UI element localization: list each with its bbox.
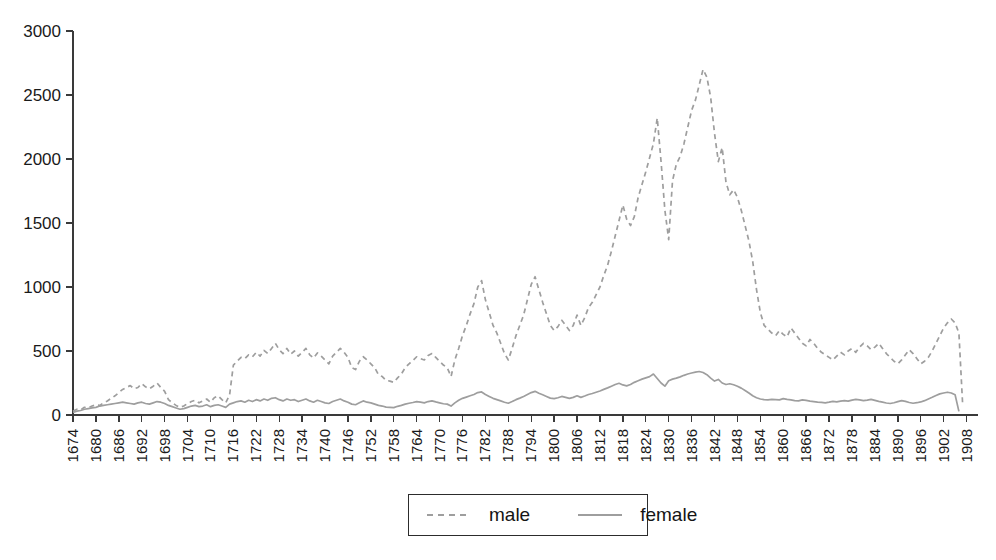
y-tick-label: 500 xyxy=(33,342,61,361)
y-tick-label: 2000 xyxy=(23,150,61,169)
x-tick-label: 1704 xyxy=(179,429,196,462)
x-tick-label: 1848 xyxy=(728,429,745,462)
x-tick-label: 1818 xyxy=(614,429,631,462)
x-tick-label: 1860 xyxy=(774,429,791,462)
chart-legend: male female xyxy=(408,494,648,536)
x-tick-label: 1830 xyxy=(660,429,677,462)
x-tick-label: 1764 xyxy=(408,429,425,462)
x-tick-label: 1752 xyxy=(362,429,379,462)
x-tick-label: 1758 xyxy=(385,429,402,462)
x-tick-label: 1698 xyxy=(156,429,173,462)
x-tick-label: 1878 xyxy=(843,429,860,462)
x-tick-label: 1728 xyxy=(270,429,287,462)
x-tick-label: 1842 xyxy=(706,429,723,462)
x-tick-label: 1794 xyxy=(522,429,539,462)
y-tick-label: 1000 xyxy=(23,278,61,297)
x-tick-label: 1746 xyxy=(339,429,356,462)
x-tick-label: 1674 xyxy=(64,429,81,462)
x-tick-label: 1824 xyxy=(637,429,654,462)
x-tick-label: 1872 xyxy=(820,429,837,462)
legend-swatch-male-dashed-line xyxy=(425,509,473,521)
x-tick-label: 1716 xyxy=(224,429,241,462)
legend-entry-male: male xyxy=(425,504,530,526)
x-tick-label: 1896 xyxy=(912,429,929,462)
chart-container: 0500100015002000250030001674168016861692… xyxy=(0,0,996,560)
x-tick-label: 1740 xyxy=(316,429,333,462)
x-tick-label: 1686 xyxy=(110,429,127,462)
x-tick-label: 1782 xyxy=(476,429,493,462)
x-tick-label: 1854 xyxy=(751,429,768,462)
x-tick-label: 1812 xyxy=(591,429,608,462)
x-tick-label: 1770 xyxy=(431,429,448,462)
x-tick-label: 1788 xyxy=(499,429,516,462)
x-tick-label: 1680 xyxy=(87,429,104,462)
x-tick-label: 1806 xyxy=(568,429,585,462)
series-line-male xyxy=(73,69,963,411)
x-tick-label: 1836 xyxy=(683,429,700,462)
line-chart-plot: 0500100015002000250030001674168016861692… xyxy=(0,0,996,560)
x-tick-label: 1890 xyxy=(889,429,906,462)
x-tick-label: 1908 xyxy=(958,429,975,462)
legend-entry-female: female xyxy=(576,504,697,526)
x-tick-label: 1692 xyxy=(133,429,150,462)
x-tick-label: 1722 xyxy=(247,429,264,462)
legend-label-female: female xyxy=(640,504,697,526)
y-tick-label: 0 xyxy=(52,406,61,425)
x-tick-label: 1800 xyxy=(545,429,562,462)
x-tick-label: 1776 xyxy=(453,429,470,462)
y-tick-label: 2500 xyxy=(23,86,61,105)
legend-label-male: male xyxy=(489,504,530,526)
x-tick-label: 1884 xyxy=(866,429,883,462)
x-tick-label: 1866 xyxy=(797,429,814,462)
y-tick-label: 3000 xyxy=(23,22,61,41)
y-tick-label: 1500 xyxy=(23,214,61,233)
x-tick-label: 1902 xyxy=(935,429,952,462)
legend-swatch-female-solid-line xyxy=(576,509,624,521)
series-line-female xyxy=(73,371,959,412)
x-tick-label: 1734 xyxy=(293,429,310,462)
x-tick-label: 1710 xyxy=(201,429,218,462)
